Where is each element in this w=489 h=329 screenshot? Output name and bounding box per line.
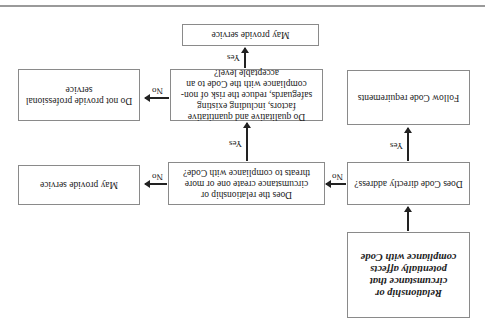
q2-text: Does the relationship or circumstance cr…	[175, 167, 318, 200]
q1-yes-result-box: Follow Code requirements	[347, 70, 470, 125]
q3-yes-label: Yes	[227, 53, 240, 63]
q3-yes-result-text: May provide service	[211, 30, 289, 41]
q3-box: Do qualitative and quantitative factors,…	[170, 69, 323, 121]
start-text: Relationship or circumstance that potent…	[354, 251, 463, 299]
q3-no-result-box: Do not provide professional service	[18, 69, 140, 121]
q3-no-result-text: Do not provide professional service	[25, 84, 133, 106]
arrow-q3-yes	[244, 48, 246, 68]
arrow-q1-no	[326, 183, 346, 185]
q1-box: Does Code directly address?	[347, 162, 470, 205]
q2-no-result-box: May provide service	[18, 165, 140, 205]
flowchart-canvas: Relationship or circumstance that potent…	[0, 0, 489, 329]
q1-text: Does Code directly address?	[354, 178, 462, 189]
q2-no-result-text: May provide service	[40, 180, 118, 191]
start-box: Relationship or circumstance that potent…	[347, 232, 470, 318]
q3-no-label: No	[152, 86, 163, 96]
top-rule	[0, 5, 485, 7]
q3-yes-result-box: May provide service	[182, 24, 319, 46]
q1-no-label: No	[332, 172, 343, 182]
arrow-q2-yes	[246, 123, 248, 161]
arrow-q1-yes	[407, 128, 409, 161]
arrow-start-to-q1	[407, 207, 409, 231]
q2-no-label: No	[152, 172, 163, 182]
q2-box: Does the relationship or circumstance cr…	[168, 162, 325, 205]
q1-yes-result-text: Follow Code requirements	[358, 92, 459, 103]
q1-yes-label: Yes	[390, 141, 403, 151]
arrow-q2-no	[145, 183, 167, 185]
q3-text: Do qualitative and quantitative factors,…	[177, 68, 316, 123]
q2-yes-label: Yes	[229, 139, 242, 149]
arrow-q3-no	[145, 97, 169, 99]
